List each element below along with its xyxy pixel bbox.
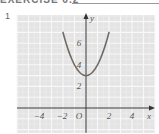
x-tick-label: 2 [107, 111, 112, 121]
y-tick-label: 6 [77, 38, 82, 48]
y-tick-label: 2 [77, 81, 82, 91]
y-axis-label: y [89, 13, 94, 23]
parabola-graph: −4−224246Oxy [0, 0, 159, 134]
x-tick-label: 4 [130, 111, 135, 121]
x-tick-label: −4 [34, 111, 45, 121]
origin-label: O [76, 111, 83, 121]
x-axis-label: x [146, 111, 151, 121]
y-tick-label: 4 [77, 60, 82, 70]
x-tick-label: −2 [57, 111, 68, 121]
